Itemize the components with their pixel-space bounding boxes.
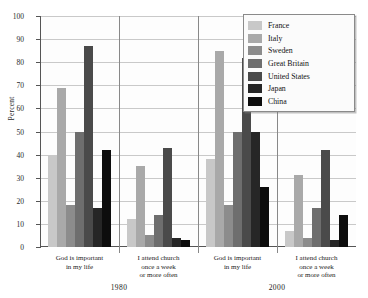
bar-france: [127, 219, 136, 247]
legend-label: Japan: [268, 84, 286, 93]
caption-line: I attend church: [277, 254, 356, 263]
bar-great-britain: [312, 208, 321, 247]
legend-item-china: China: [248, 95, 350, 108]
caption-line: or more often: [119, 271, 198, 280]
legend-swatch: [248, 46, 262, 55]
caption-line: once a week: [119, 263, 198, 272]
y-tick: [36, 224, 41, 225]
y-tick: [36, 247, 41, 248]
legend: FranceItalySwedenGreat BritainUnited Sta…: [243, 14, 355, 112]
bar-japan: [93, 208, 102, 247]
caption-line: in my life: [198, 263, 277, 272]
legend-swatch: [248, 72, 262, 81]
legend-label: United States: [268, 72, 310, 81]
bar-italy: [57, 88, 66, 247]
legend-swatch: [248, 34, 262, 43]
y-tick-label: 10: [0, 219, 24, 228]
legend-label: Italy: [268, 34, 282, 43]
y-tick: [36, 62, 41, 63]
bar-japan: [330, 240, 339, 247]
bar-france: [206, 159, 215, 247]
bar-italy: [294, 175, 303, 247]
y-tick: [36, 16, 41, 17]
legend-item-great-britain: Great Britain: [248, 57, 350, 70]
caption-line: I attend church: [119, 254, 198, 263]
bar-italy: [136, 166, 145, 247]
group-caption: I attend churchonce a weekor more often: [277, 254, 356, 280]
group-caption: I attend churchonce a weekor more often: [119, 254, 198, 280]
legend-item-france: France: [248, 19, 350, 32]
bar-japan: [172, 238, 181, 247]
y-tick: [36, 85, 41, 86]
y-tick: [36, 132, 41, 133]
legend-item-japan: Japan: [248, 82, 350, 95]
bar-china: [260, 187, 269, 247]
y-tick: [36, 108, 41, 109]
y-tick: [36, 201, 41, 202]
bar-sweden: [145, 235, 154, 247]
y-tick-label: 30: [0, 173, 24, 182]
caption-line: once a week: [277, 263, 356, 272]
legend-label: France: [268, 21, 289, 30]
year-label: 1980: [40, 283, 198, 292]
bar-group: [127, 16, 190, 247]
y-tick-label: 80: [0, 58, 24, 67]
legend-label: Sweden: [268, 46, 293, 55]
y-tick: [36, 39, 41, 40]
y-tick-label: 100: [0, 12, 24, 21]
bar-great-britain: [154, 215, 163, 247]
caption-line: or more often: [277, 271, 356, 280]
bar-china: [339, 215, 348, 247]
bar-sweden: [303, 238, 312, 247]
legend-label: Great Britain: [268, 59, 309, 68]
bar-great-britain: [233, 132, 242, 248]
group-caption: God is importantin my life: [198, 254, 277, 271]
bar-japan: [251, 132, 260, 248]
bar-china: [102, 150, 111, 247]
group-separator: [198, 16, 199, 253]
bar-group: [48, 16, 111, 247]
bar-china: [181, 240, 190, 247]
bar-united-states: [163, 148, 172, 247]
y-tick-label: 50: [0, 127, 24, 136]
legend-swatch: [248, 97, 262, 106]
caption-line: in my life: [40, 263, 119, 272]
legend-swatch: [248, 59, 262, 68]
y-tick: [36, 155, 41, 156]
group-caption: God is importantin my life: [40, 254, 119, 271]
y-tick-label: 70: [0, 81, 24, 90]
legend-item-italy: Italy: [248, 32, 350, 45]
y-tick: [36, 178, 41, 179]
legend-label: China: [268, 97, 287, 106]
bar-france: [285, 231, 294, 247]
bar-united-states: [321, 150, 330, 247]
bar-united-states: [84, 46, 93, 247]
y-tick-label: 20: [0, 196, 24, 205]
legend-swatch: [248, 84, 262, 93]
y-tick-label: 60: [0, 104, 24, 113]
y-tick-label: 90: [0, 35, 24, 44]
y-tick-label: 0: [0, 243, 24, 252]
legend-item-sweden: Sweden: [248, 44, 350, 57]
bar-sweden: [224, 205, 233, 247]
year-label: 2000: [198, 283, 356, 292]
y-tick-label: 40: [0, 150, 24, 159]
bar-france: [48, 155, 57, 247]
caption-line: God is important: [198, 254, 277, 263]
caption-line: God is important: [40, 254, 119, 263]
legend-swatch: [248, 21, 262, 30]
bar-chart: Percent 0102030405060708090100 God is im…: [0, 0, 368, 298]
bar-sweden: [66, 205, 75, 247]
bar-italy: [215, 51, 224, 247]
bar-great-britain: [75, 132, 84, 248]
group-separator: [119, 16, 120, 253]
legend-item-united-states: United States: [248, 70, 350, 83]
